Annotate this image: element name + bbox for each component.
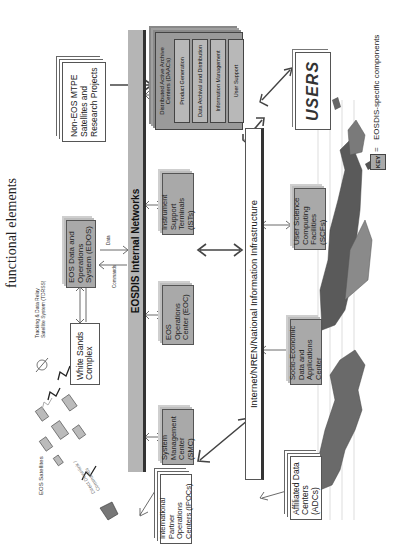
daac-item-information-management: Information Management bbox=[210, 39, 226, 123]
eosdis-internal-networks-band[interactable]: EOSDIS Internal Networks bbox=[128, 30, 146, 472]
white-sands-complex[interactable]: White Sands Complex bbox=[70, 323, 100, 385]
internal-networks-label: EOSDIS Internal Networks bbox=[130, 189, 141, 313]
world-map-graphic bbox=[316, 68, 373, 520]
users-box[interactable]: USERS bbox=[295, 52, 331, 130]
edos-data-label: Data bbox=[106, 235, 112, 245]
key-description: EOSDIS-specific components bbox=[372, 35, 381, 140]
ist-box[interactable]: Instrument Support Terminals (ISTs) bbox=[162, 173, 194, 235]
internet-nren-nii-band[interactable]: Internet/NREN/National Information Infra… bbox=[245, 128, 264, 480]
ipocs-box[interactable]: International Partner Operations Centers… bbox=[160, 474, 192, 544]
daac-item-product-generation: Product Generation bbox=[174, 39, 190, 123]
user-scfs-box[interactable]: User Science Computing Facilities (SCFs) bbox=[294, 188, 326, 250]
key-badge: KEY bbox=[370, 154, 386, 170]
diagram-canvas: functional elements bbox=[0, 0, 399, 550]
ground-antenna-icon bbox=[100, 502, 118, 520]
daac-stack[interactable]: Distributed Active Archive Centers (DAAC… bbox=[155, 32, 243, 130]
non-eos-mtpe-box[interactable]: Non-EOS MTPE Satellites and Research Pro… bbox=[62, 62, 106, 142]
eoc-box[interactable]: EOS Operations Center (EOC) bbox=[162, 285, 194, 345]
smc-box[interactable]: System Management Center (SMC) bbox=[162, 409, 194, 465]
sedac-box[interactable]: Socio-Economic Data and Applications Cen… bbox=[290, 319, 322, 385]
americas-shape bbox=[318, 350, 365, 490]
edos-box[interactable]: EOS Data and Operations System (EDOS) bbox=[66, 220, 96, 288]
daac-title: Distributed Active Archive Centers (DAAC… bbox=[159, 36, 171, 126]
eos-satellites-label: EOS Satellites bbox=[38, 456, 44, 495]
internet-band-label: Internet/NREN/National Information Infra… bbox=[248, 200, 259, 408]
daac-item-archival-distribution: Data Archival and Distribution bbox=[192, 39, 208, 123]
key-equals: = bbox=[372, 147, 381, 152]
tdrss-label: Tracking & Data Relay Satellite System (… bbox=[34, 280, 46, 338]
edos-commands-label: Commands bbox=[112, 265, 118, 288]
daac-item-user-support: User Support bbox=[228, 39, 244, 123]
adcs-box[interactable]: Affiliated Data Centers (ADCs) bbox=[290, 456, 322, 520]
